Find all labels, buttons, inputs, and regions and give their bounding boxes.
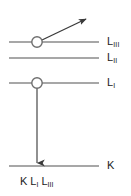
level-label-l2: LII <box>107 52 117 63</box>
vacancy-circle-l1 <box>32 78 42 88</box>
level-label-l3-sub: III <box>113 41 119 48</box>
caption-part-3-sub: III <box>48 181 54 188</box>
level-label-l1: LI <box>107 77 115 88</box>
level-label-l3: LIII <box>107 36 119 47</box>
transition-caption: KLILIII <box>20 176 53 187</box>
caption-part-1-base: K <box>20 175 27 187</box>
level-label-l1-sub: I <box>113 82 115 89</box>
caption-part-3-base: L <box>41 175 47 187</box>
energy-level-diagram: LIII LII LI K KLILIII <box>0 0 131 196</box>
level-label-l2-sub: II <box>113 57 117 64</box>
vacancy-circle-l3 <box>32 37 42 47</box>
level-label-k: K <box>107 160 115 171</box>
auger-electron-arrow <box>42 19 86 40</box>
caption-part-2-sub: I <box>36 181 38 188</box>
level-label-k-base: K <box>107 159 115 171</box>
